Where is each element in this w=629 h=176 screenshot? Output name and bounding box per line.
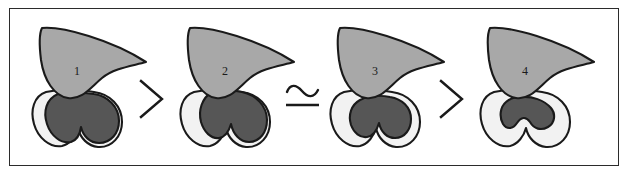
figure-root: 1 2 bbox=[0, 0, 629, 176]
operator-asymptotically-equal bbox=[281, 0, 325, 176]
specimen-2-wing bbox=[188, 28, 294, 98]
specimen-panel-3: 3 bbox=[326, 22, 448, 150]
specimen-2-label: 2 bbox=[222, 65, 228, 77]
specimen-panel-4: 4 bbox=[476, 22, 598, 150]
tilde-stroke-icon bbox=[287, 86, 318, 96]
operator-greater-than-1 bbox=[131, 0, 175, 176]
specimen-3-label: 3 bbox=[372, 65, 378, 77]
operator-greater-than-2 bbox=[431, 0, 475, 176]
specimen-4-wing bbox=[488, 28, 594, 98]
greater-than-icon bbox=[141, 81, 162, 117]
greater-than-icon bbox=[441, 81, 462, 117]
specimen-panel-2: 2 bbox=[176, 22, 298, 150]
specimen-3-wing bbox=[338, 28, 444, 98]
specimen-1-label: 1 bbox=[74, 65, 80, 77]
specimen-row: 1 2 bbox=[0, 0, 629, 176]
specimen-4-label: 4 bbox=[522, 65, 528, 77]
